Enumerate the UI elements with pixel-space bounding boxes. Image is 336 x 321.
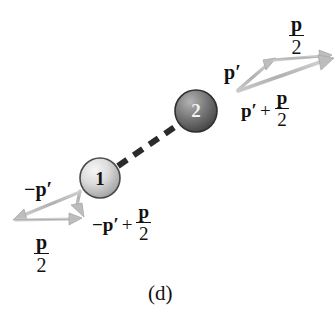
label-minus-p-prime-symbol: p xyxy=(35,178,46,200)
label-minus-p-prime-plus-numerator: p xyxy=(136,202,151,223)
label-p-prime-upper-prime: ′ xyxy=(235,61,241,83)
label-p-over-2-top-numerator: p xyxy=(289,14,304,36)
figure-caption: (d) xyxy=(148,283,173,304)
label-minus-p-prime-prime: ′ xyxy=(47,178,53,200)
label-minus-p-prime-plus-p-over-2: −p′+ p 2 xyxy=(92,202,152,243)
label-minus-p-prime-plus-sign: − xyxy=(92,214,103,235)
label-minus-p-prime-plus-denominator: 2 xyxy=(136,223,151,243)
collision-axis-dashed-line xyxy=(118,124,179,166)
label-p-over-2-top-denominator: 2 xyxy=(289,36,304,57)
label-p-prime-upper: p′ xyxy=(224,62,241,82)
label-minus-p-prime-sign: − xyxy=(24,178,35,200)
label-p-prime-plus-operator: + xyxy=(257,100,274,121)
label-minus-p-prime-plus-operator: + xyxy=(119,214,136,235)
label-p-over-2-bottom-denominator: 2 xyxy=(34,254,49,275)
momentum-vector-figure: 1 2 p 2 p′ p′+ p 2 −p′ p 2 −p′+ p 2 xyxy=(0,0,336,321)
label-p-over-2-top: p 2 xyxy=(288,14,305,57)
label-p-prime-plus-numerator: p xyxy=(275,88,290,109)
label-minus-p-prime-lower: −p′ xyxy=(24,179,52,199)
label-p-over-2-bottom: p 2 xyxy=(33,232,50,275)
label-p-prime-plus-p-over-2: p′+ p 2 xyxy=(241,88,290,129)
label-p-prime-plus-denominator: 2 xyxy=(275,109,290,129)
vector-group-upper-right xyxy=(238,50,334,91)
ball-1-label: 1 xyxy=(88,169,112,188)
ball-2-label: 2 xyxy=(184,101,208,120)
label-p-prime-plus-lead: p xyxy=(241,100,252,121)
label-p-prime-upper-symbol: p xyxy=(224,61,235,83)
label-p-over-2-bottom-numerator: p xyxy=(34,232,49,254)
figure-canvas xyxy=(0,0,336,321)
label-minus-p-prime-plus-lead: p xyxy=(103,214,114,235)
label-minus-p-prime-plus-prime: ′ xyxy=(113,214,118,235)
